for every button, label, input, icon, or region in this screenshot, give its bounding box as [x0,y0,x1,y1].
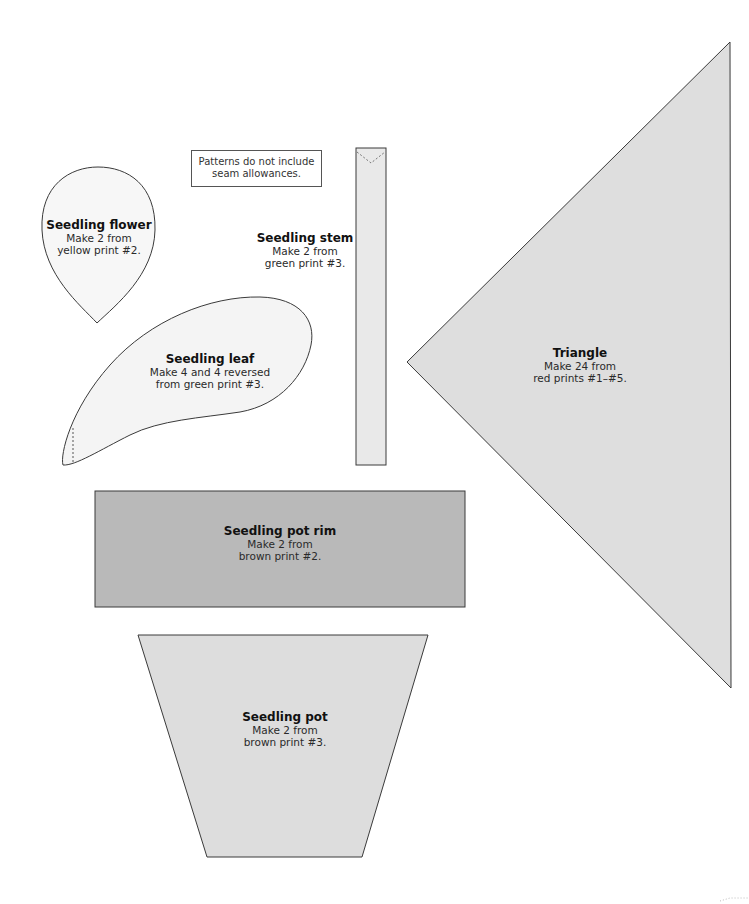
stem-line-2: green print #3. [250,257,360,269]
pot-rim-line-1: Make 2 from [215,538,345,550]
stem-line-1: Make 2 from [250,245,360,257]
pot-title: Seedling pot [225,710,345,724]
pot-rim-label: Seedling pot rim Make 2 from brown print… [215,524,345,562]
seedling-stem-piece [356,148,386,465]
flower-title: Seedling flower [40,218,158,232]
leaf-line-1: Make 4 and 4 reversed [140,366,280,378]
note-line-1: Patterns do not include [192,156,321,168]
leaf-label: Seedling leaf Make 4 and 4 reversed from… [140,352,280,390]
corner-mark [720,898,749,901]
pot-line-1: Make 2 from [225,724,345,736]
stem-title: Seedling stem [250,231,360,245]
pot-rim-line-2: brown print #2. [215,550,345,562]
leaf-line-2: from green print #3. [140,378,280,390]
pot-label: Seedling pot Make 2 from brown print #3. [225,710,345,748]
triangle-title: Triangle [520,346,640,360]
pot-rim-title: Seedling pot rim [215,524,345,538]
flower-line-1: Make 2 from [40,232,158,244]
triangle-line-2: red prints #1–#5. [520,372,640,384]
stem-label: Seedling stem Make 2 from green print #3… [250,231,360,269]
flower-line-2: yellow print #2. [40,244,158,256]
flower-label: Seedling flower Make 2 from yellow print… [40,218,158,256]
leaf-title: Seedling leaf [140,352,280,366]
pattern-sheet [0,0,749,904]
triangle-line-1: Make 24 from [520,360,640,372]
pot-line-2: brown print #3. [225,736,345,748]
note-line-2: seam allowances. [192,168,321,180]
seam-allowance-note: Patterns do not include seam allowances. [191,150,322,187]
triangle-label: Triangle Make 24 from red prints #1–#5. [520,346,640,384]
